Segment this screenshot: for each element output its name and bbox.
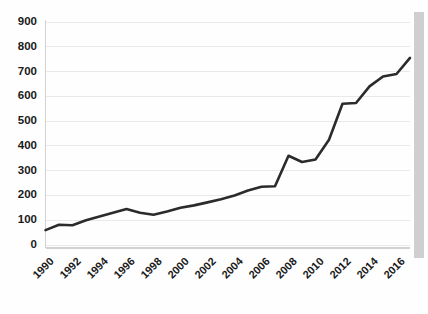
y-axis-tick-label: 700	[18, 65, 37, 77]
x-axis-tick-label: 2014	[354, 254, 380, 280]
x-axis-tick-labels: 1990199219941996199820002002200420062008…	[30, 254, 407, 280]
y-axis-tick-label: 100	[18, 213, 37, 225]
y-axis-tick-label: 500	[18, 114, 37, 126]
x-axis-tick-label: 2012	[327, 255, 353, 281]
y-axis-tick-label: 600	[18, 89, 37, 101]
y-axis-tick-label: 300	[18, 164, 37, 176]
y-axis-tick-label: 400	[18, 139, 37, 151]
y-axis-tick-labels: 9008007006005004003002001000	[18, 15, 37, 250]
x-axis-tick-label: 2016	[381, 255, 407, 281]
x-axis-tick-label: 2004	[219, 254, 245, 280]
x-axis-tick-label: 2010	[300, 255, 326, 281]
axis-lines	[46, 20, 411, 248]
y-axis-tick-label: 0	[31, 238, 37, 250]
vertical-scrollbar[interactable]	[414, 12, 424, 258]
x-axis-tick-label: 1996	[111, 255, 137, 281]
x-axis-tick-label: 2008	[273, 255, 299, 281]
x-axis-tick-label: 1992	[57, 255, 83, 281]
y-axis-tick-label: 800	[18, 40, 37, 52]
line-chart: 9008007006005004003002001000 19901992199…	[0, 0, 428, 314]
gridlines	[46, 22, 411, 245]
chart-plot-area: 9008007006005004003002001000 19901992199…	[0, 0, 428, 314]
x-axis-tick-label: 1994	[84, 254, 110, 280]
y-axis-tick-label: 200	[18, 188, 37, 200]
x-axis-tick-label: 2002	[192, 255, 218, 281]
x-axis-tick-label: 2006	[246, 255, 272, 281]
x-axis-tick-label: 1998	[138, 255, 164, 281]
x-axis-tick-label: 2000	[165, 255, 191, 281]
x-axis-tick-label: 1990	[30, 255, 56, 281]
y-axis-tick-label: 900	[18, 15, 37, 27]
data-series-line	[46, 58, 411, 230]
